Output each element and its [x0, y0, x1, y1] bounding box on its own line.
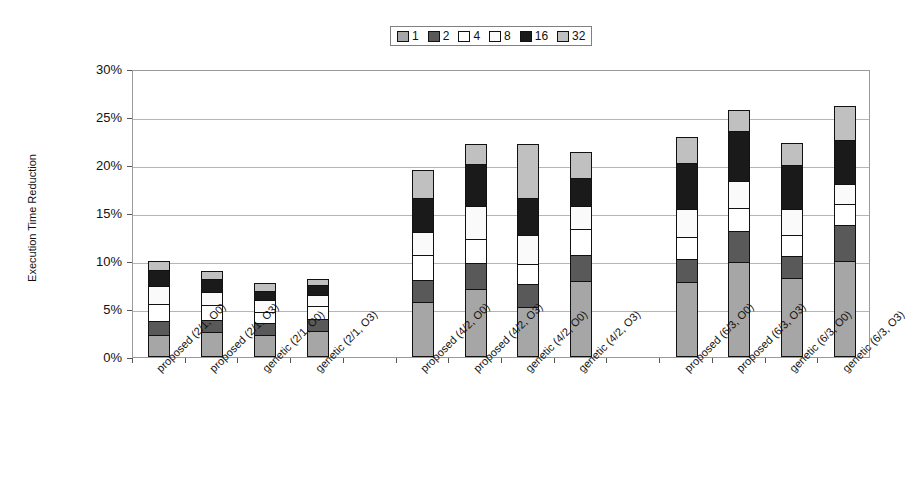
x-axis-labels: proposed (2/1, O0)proposed (2/1, O3)gene… — [0, 0, 884, 496]
stacked-bar-chart: 1 2 4 8 16 32 Execution Time Reduction 0… — [0, 0, 884, 496]
